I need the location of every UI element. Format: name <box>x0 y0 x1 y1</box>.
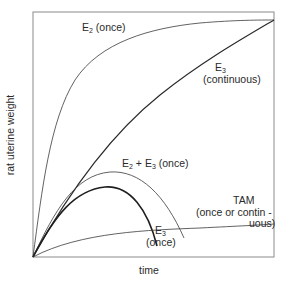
y-axis-label: rat uterine weight <box>4 95 16 176</box>
series-e2-once <box>33 20 274 257</box>
label-e3-once-line2: (once) <box>146 237 176 248</box>
plot-frame <box>33 12 274 257</box>
series-e3-continuous <box>33 20 274 257</box>
label-e2-once: E2 (once) <box>82 22 126 36</box>
x-axis-label: time <box>139 264 159 276</box>
series-e3-once <box>33 187 157 257</box>
label-tam-line3: uous) <box>249 218 275 229</box>
label-e3-continuous-line2: (continuous) <box>203 74 261 85</box>
label-e2e3-once: E2 + E3 (once) <box>122 158 189 172</box>
label-tam-line1: TAM <box>233 195 254 206</box>
